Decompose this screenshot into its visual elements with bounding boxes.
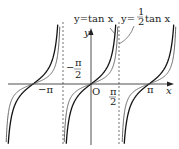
plot-area: y=tan x y= 1 2 tan x y x O −π π π 2 − π … bbox=[0, 0, 179, 149]
label-half-tan-prefix: y= bbox=[120, 13, 135, 24]
svg-text:−: − bbox=[66, 62, 74, 73]
svg-text:2: 2 bbox=[110, 96, 116, 107]
y-axis-label: y bbox=[83, 27, 90, 38]
tick-neg-pi: −π bbox=[38, 84, 53, 95]
tick-pi: π bbox=[147, 84, 154, 95]
tan-leader-line bbox=[110, 28, 115, 34]
tangent-graph: y=tan x y= 1 2 tan x y x O −π π π 2 − π … bbox=[0, 0, 179, 149]
svg-text:2: 2 bbox=[75, 69, 81, 80]
x-axis-label: x bbox=[166, 85, 172, 96]
tick-half-pi: π 2 bbox=[109, 86, 117, 107]
svg-text:π: π bbox=[75, 57, 82, 68]
origin-label: O bbox=[92, 86, 100, 97]
half-tan-leader-line bbox=[119, 26, 134, 44]
label-tan: y=tan x bbox=[73, 13, 114, 24]
label-half-tail: tan x bbox=[145, 13, 171, 24]
label-half-den: 2 bbox=[138, 16, 144, 27]
tick-neg-half-pi: − π 2 bbox=[66, 57, 82, 80]
